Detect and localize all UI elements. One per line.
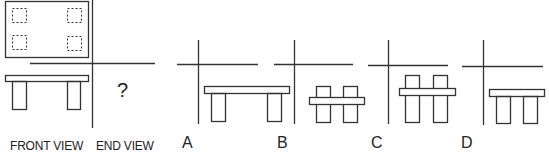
end-view-label: END VIEW [96, 139, 154, 153]
option-a-label[interactable]: A [182, 134, 193, 152]
front-view-drawing [6, 76, 89, 110]
option-c-label[interactable]: C [371, 134, 383, 152]
diagram-canvas [0, 0, 549, 156]
option-d-label[interactable]: D [461, 134, 473, 152]
unknown-end-view-mark: ? [117, 79, 128, 102]
option-b-drawing[interactable] [274, 40, 365, 124]
hidden-leg-squares [13, 9, 82, 51]
front-view-label: FRONT VIEW [10, 139, 83, 153]
option-a-drawing[interactable] [177, 40, 290, 124]
option-c-drawing[interactable] [368, 40, 456, 124]
option-d-drawing[interactable] [462, 40, 545, 125]
option-b-label[interactable]: B [277, 134, 288, 152]
